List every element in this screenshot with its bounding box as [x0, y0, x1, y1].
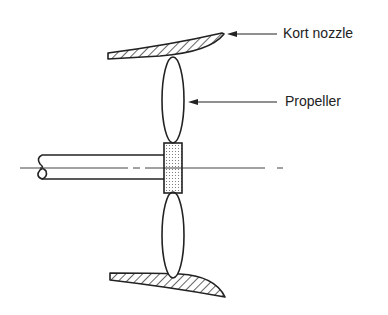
propeller-hub [164, 143, 182, 193]
diagram-canvas [0, 0, 388, 315]
kort-nozzle-bottom [110, 273, 225, 297]
kort-nozzle-top [108, 33, 224, 59]
propeller-arrow [188, 99, 277, 105]
kort-nozzle-arrow [227, 31, 277, 37]
propeller-label: Propeller [285, 93, 341, 109]
shaft [38, 155, 164, 179]
kort-nozzle-label: Kort nozzle [283, 25, 353, 41]
